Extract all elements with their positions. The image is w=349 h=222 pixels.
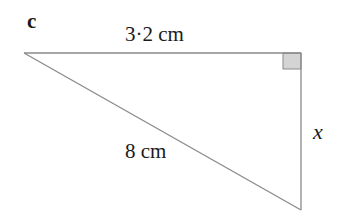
hypotenuse-label: 8 cm [125,141,166,162]
part-label: c [27,11,36,32]
right-angle-marker [283,53,301,69]
top-side-label: 3·2 cm [125,24,184,45]
vertical-side-label: x [313,121,323,143]
hypotenuse [24,53,301,210]
